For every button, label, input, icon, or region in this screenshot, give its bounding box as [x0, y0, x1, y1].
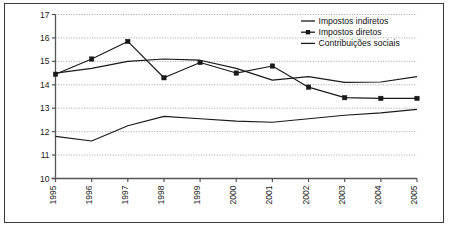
data-point-marker — [415, 96, 419, 100]
data-point-marker — [89, 57, 93, 61]
x-tick-label: 2004 — [373, 185, 383, 204]
x-tick-label: 2001 — [264, 185, 274, 204]
legend-label-3: Contribuições sociais — [319, 38, 400, 48]
data-point-marker — [379, 96, 383, 100]
x-tick-label: 2000 — [228, 185, 238, 204]
data-point-marker — [343, 95, 347, 99]
data-point-marker — [198, 60, 202, 64]
series-line-3 — [56, 109, 418, 141]
data-point-marker — [234, 71, 238, 75]
y-tick-label: 11 — [41, 150, 50, 160]
data-point-marker — [162, 76, 166, 80]
data-point-marker — [270, 64, 274, 68]
y-tick-label: 10 — [40, 174, 50, 184]
series-line-2 — [56, 41, 418, 98]
x-axis-tick-labels: 1995199619971998199920002001200220032004… — [48, 185, 420, 204]
x-tick-label: 2002 — [301, 185, 311, 204]
data-point-marker — [126, 39, 130, 43]
y-tick-label: 16 — [40, 33, 50, 43]
legend-label-1: Impostos indiretos — [319, 16, 389, 26]
y-tick-label: 17 — [40, 10, 50, 20]
y-tick-label: 12 — [40, 127, 50, 137]
y-tick-label: 13 — [40, 103, 50, 113]
data-point-marker — [53, 72, 57, 76]
x-tick-label: 2003 — [337, 185, 347, 204]
x-tick-label: 2005 — [409, 185, 419, 204]
y-tick-label: 14 — [40, 80, 50, 90]
y-axis-tick-labels: 1011121314151617 — [40, 10, 50, 184]
legend-label-2: Impostos diretos — [319, 27, 382, 37]
data-series-group — [53, 39, 419, 141]
x-tick-label: 1996 — [84, 185, 94, 204]
chart-figure: 1011121314151617 19951996199719981999200… — [0, 0, 449, 228]
x-tick-label: 1998 — [156, 185, 166, 204]
x-tick-label: 1995 — [48, 185, 58, 204]
legend-swatch-marker-2 — [306, 30, 310, 34]
x-tick-label: 1997 — [120, 185, 130, 204]
x-tick-label: 1999 — [192, 185, 202, 204]
data-point-marker — [306, 85, 310, 89]
line-chart: 1011121314151617 19951996199719981999200… — [0, 0, 449, 228]
chart-legend: Impostos indiretosImpostos diretosContri… — [301, 16, 400, 48]
y-tick-label: 15 — [40, 56, 50, 66]
